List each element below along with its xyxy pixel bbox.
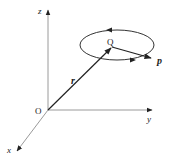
- point-q-label: Q: [107, 37, 114, 47]
- momentum-vector-p: [112, 47, 151, 58]
- orbit-arrow-top-icon: [106, 28, 112, 33]
- orbit-diagram: z y x O Q r p: [0, 0, 172, 164]
- vector-r-label: r: [71, 75, 75, 86]
- position-vector-r: [48, 48, 111, 110]
- x-axis-label: x: [6, 145, 11, 155]
- z-axis-label: z: [37, 6, 42, 16]
- x-axis: [17, 110, 48, 151]
- origin-label: O: [35, 106, 42, 116]
- y-axis-label: y: [146, 114, 151, 124]
- vector-p-label: p: [156, 55, 162, 66]
